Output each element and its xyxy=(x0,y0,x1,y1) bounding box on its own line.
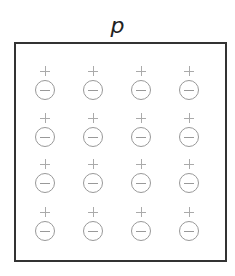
charge-pair-r4-c3 xyxy=(131,207,151,247)
negative-ion-icon xyxy=(179,221,199,241)
charge-pair-r1-c4 xyxy=(179,66,199,106)
negative-ion-icon xyxy=(83,127,103,147)
charge-pair-r4-c2 xyxy=(83,207,103,247)
charge-pair-r4-c1 xyxy=(35,207,55,247)
positive-charge-icon xyxy=(40,66,50,76)
positive-charge-icon xyxy=(184,113,194,123)
charge-pair-r1-c1 xyxy=(35,66,55,106)
negative-ion-icon xyxy=(131,127,151,147)
negative-ion-icon xyxy=(35,173,55,193)
positive-charge-icon xyxy=(184,159,194,169)
charge-pair-r3-c2 xyxy=(83,159,103,199)
negative-ion-icon xyxy=(35,127,55,147)
charge-pair-r2-c2 xyxy=(83,113,103,153)
positive-charge-icon xyxy=(88,207,98,217)
positive-charge-icon xyxy=(184,66,194,76)
positive-charge-icon xyxy=(136,207,146,217)
charge-pair-r2-c1 xyxy=(35,113,55,153)
region-label-p: p xyxy=(0,14,235,38)
negative-ion-icon xyxy=(35,221,55,241)
charge-pair-r1-c3 xyxy=(131,66,151,106)
positive-charge-icon xyxy=(40,159,50,169)
negative-ion-icon xyxy=(131,80,151,100)
charge-pair-r4-c4 xyxy=(179,207,199,247)
negative-ion-icon xyxy=(35,80,55,100)
negative-ion-icon xyxy=(131,173,151,193)
positive-charge-icon xyxy=(40,207,50,217)
charge-pair-r2-c4 xyxy=(179,113,199,153)
negative-ion-icon xyxy=(83,80,103,100)
positive-charge-icon xyxy=(88,159,98,169)
negative-ion-icon xyxy=(83,221,103,241)
negative-ion-icon xyxy=(83,173,103,193)
charge-pair-r3-c3 xyxy=(131,159,151,199)
charge-pair-r3-c4 xyxy=(179,159,199,199)
negative-ion-icon xyxy=(131,221,151,241)
positive-charge-icon xyxy=(88,113,98,123)
negative-ion-icon xyxy=(179,80,199,100)
positive-charge-icon xyxy=(88,66,98,76)
charge-pair-r2-c3 xyxy=(131,113,151,153)
charge-pair-r3-c1 xyxy=(35,159,55,199)
negative-ion-icon xyxy=(179,173,199,193)
positive-charge-icon xyxy=(136,159,146,169)
positive-charge-icon xyxy=(136,66,146,76)
positive-charge-icon xyxy=(184,207,194,217)
positive-charge-icon xyxy=(136,113,146,123)
negative-ion-icon xyxy=(179,127,199,147)
positive-charge-icon xyxy=(40,113,50,123)
charge-pair-r1-c2 xyxy=(83,66,103,106)
